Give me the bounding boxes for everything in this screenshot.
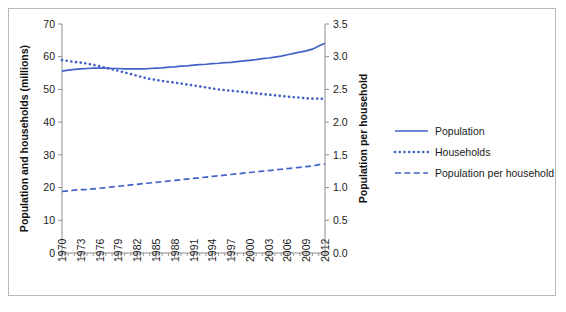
x-axis-tick-label: 2000 <box>244 238 256 262</box>
right-axis-tick-label: 3.5 <box>333 18 348 30</box>
legend-label-population-per-household: Population per household <box>435 167 554 179</box>
x-axis-tick-label: 2009 <box>300 238 312 262</box>
x-axis-tick-label: 1985 <box>150 238 162 262</box>
left-axis-tick-label: 50 <box>43 83 55 95</box>
right-axis-tick-label: 2.0 <box>333 116 348 128</box>
x-axis-tick-label: 1988 <box>169 238 181 262</box>
left-axis-tick-label: 70 <box>43 18 55 30</box>
x-axis-tick-label: 1997 <box>225 238 237 262</box>
right-axis-title: Population per household <box>357 74 369 204</box>
right-axis-tick-label: 3.0 <box>333 50 348 62</box>
x-axis-tick-label: 1991 <box>188 238 200 262</box>
left-axis-tick-label: 0 <box>49 247 55 259</box>
x-axis-tick-label: 2003 <box>263 238 275 262</box>
right-axis-tick-label: 1.0 <box>333 181 348 193</box>
x-axis-tick-label: 1973 <box>75 238 87 262</box>
line-chart: 0102030405060700.00.51.01.52.02.53.03.51… <box>0 0 566 312</box>
chart-figure: 0102030405060700.00.51.01.52.02.53.03.51… <box>0 0 566 312</box>
series-line-population <box>62 43 325 71</box>
x-axis-tick-label: 1970 <box>56 238 68 262</box>
left-axis-tick-label: 40 <box>43 116 55 128</box>
x-axis-tick-label: 2012 <box>319 238 331 262</box>
legend-label-population: Population <box>435 125 485 137</box>
left-axis-tick-label: 30 <box>43 149 55 161</box>
x-axis-tick-label: 1979 <box>112 238 124 262</box>
x-axis-tick-label: 1982 <box>131 238 143 262</box>
series-line-population-per-household <box>62 164 325 191</box>
right-axis-tick-label: 2.5 <box>333 83 348 95</box>
left-axis-tick-label: 60 <box>43 50 55 62</box>
right-axis-tick-label: 0.5 <box>333 214 348 226</box>
left-axis-tick-label: 10 <box>43 214 55 226</box>
right-axis-tick-label: 0.0 <box>333 247 348 259</box>
x-axis-tick-label: 2006 <box>281 238 293 262</box>
right-axis-tick-label: 1.5 <box>333 149 348 161</box>
left-axis-tick-label: 20 <box>43 181 55 193</box>
legend-label-households: Households <box>435 146 490 158</box>
x-axis-tick-label: 1994 <box>206 238 218 262</box>
x-axis-tick-label: 1976 <box>94 238 106 262</box>
left-axis-title: Population and households (millions) <box>18 45 30 232</box>
